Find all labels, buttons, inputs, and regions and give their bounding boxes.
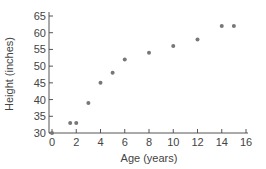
data-point: [111, 71, 115, 75]
y-axis: 3035404550556065: [34, 10, 53, 139]
y-tick-label: 40: [34, 94, 46, 106]
data-point: [232, 24, 236, 28]
x-tick-label: 14: [216, 136, 228, 148]
y-tick-label: 60: [34, 27, 46, 39]
y-tick-label: 35: [34, 110, 46, 122]
y-axis-title: Height (inches): [3, 37, 15, 111]
data-point: [99, 81, 103, 85]
data-point: [123, 57, 127, 61]
data-point: [196, 37, 200, 41]
y-tick-label: 45: [34, 77, 46, 89]
y-tick-label: 65: [34, 10, 46, 22]
data-point: [171, 44, 175, 48]
data-point: [220, 24, 224, 28]
x-tick-label: 12: [191, 136, 203, 148]
x-tick-label: 2: [73, 136, 79, 148]
x-tick-label: 6: [122, 136, 128, 148]
x-axis-title: Age (years): [121, 152, 178, 164]
x-tick-label: 0: [49, 136, 55, 148]
y-tick-label: 30: [34, 127, 46, 139]
y-tick-label: 50: [34, 60, 46, 72]
x-tick-label: 10: [167, 136, 179, 148]
x-tick-label: 4: [97, 136, 103, 148]
scatter-chart: 3035404550556065 0246810121416 Age (year…: [0, 0, 266, 169]
data-point: [74, 121, 78, 125]
x-tick-label: 8: [146, 136, 152, 148]
data-point: [86, 101, 90, 105]
data-point: [68, 121, 72, 125]
x-tick-label: 16: [240, 136, 252, 148]
data-points: [50, 24, 236, 135]
data-point: [147, 51, 151, 55]
x-axis: 0246810121416: [49, 129, 252, 148]
data-point: [50, 131, 54, 135]
y-tick-label: 55: [34, 43, 46, 55]
